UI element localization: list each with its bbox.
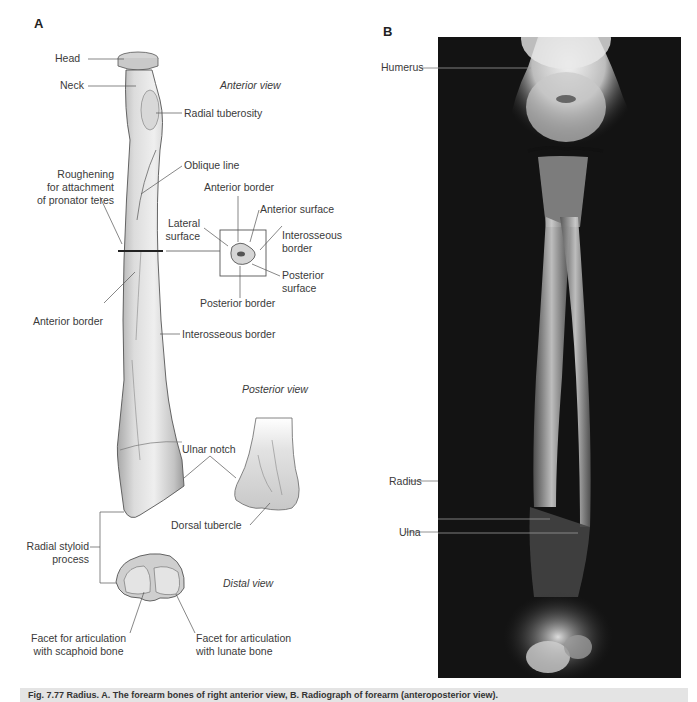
label-anterior-border: Anterior border [33,315,103,328]
label-head: Head [55,52,80,65]
label-dorsal-tubercle: Dorsal tubercle [171,519,242,532]
label-posterior-surface: Posterior surface [282,269,324,295]
view-anterior: Anterior view [220,79,281,92]
label-facet-lunate: Facet for articulation with lunate bone [196,632,291,658]
view-distal: Distal view [223,577,273,590]
label-oblique-line: Oblique line [184,159,239,172]
label-humerus: Humerus [381,61,424,73]
label-inset-anterior-border: Anterior border [204,181,274,194]
label-radial-styloid-process: Radial styloid process [27,540,89,566]
label-neck: Neck [60,79,84,92]
label-facet-scaphoid: Facet for articulation with scaphoid bon… [31,632,126,658]
view-posterior: Posterior view [242,383,308,396]
label-roughening: Roughening for attachment of pronator te… [37,168,114,207]
label-ulnar-notch: Ulnar notch [182,443,236,456]
label-ulna: Ulna [399,526,421,538]
label-radial-tuberosity: Radial tuberosity [184,107,262,120]
label-anterior-surface: Anterior surface [260,203,334,216]
label-radius: Radius [389,475,422,487]
label-lateral-surface: Lateral surface [166,217,200,243]
label-interosseous-border: Interosseous border [182,328,275,341]
label-inset-interosseous-border: Interosseous border [282,229,342,255]
forearm-radiograph [438,37,681,678]
radius-illustration [0,0,437,690]
label-posterior-border: Posterior border [200,297,275,310]
figure-caption: Fig. 7.77 Radius. A. The forearm bones o… [20,688,688,702]
